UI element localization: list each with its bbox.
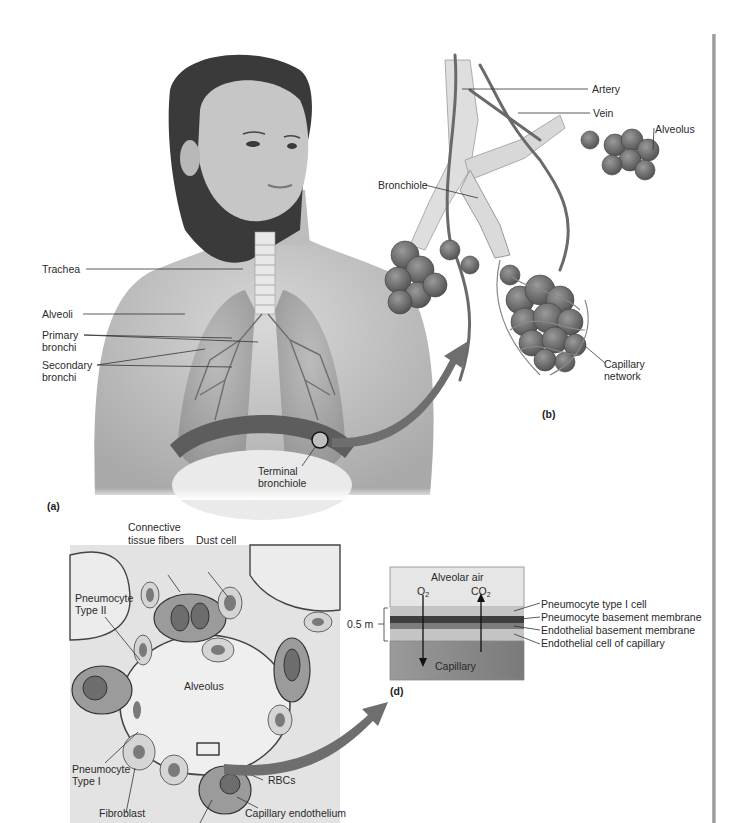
label-pneumocyte-type-i-line1: Pneumocyte	[72, 763, 130, 775]
panel-tag-d: (d)	[390, 685, 403, 697]
label-co2: CO2	[471, 585, 491, 601]
label-alveolus-c: Alveolus	[184, 680, 224, 692]
label-pneumocyte-basement-membrane: Pneumocyte basement membrane	[541, 611, 702, 623]
label-alveolus-b: Alveolus	[655, 123, 695, 135]
label-pneumocyte-type-ii-line1: Pneumocyte	[75, 592, 133, 604]
label-capillary: Capillary	[435, 660, 476, 672]
label-terminal-bronchiole-line1: Terminal	[258, 465, 298, 477]
label-fibroblast: Fibroblast	[99, 807, 145, 819]
label-dust-cell: Dust cell	[196, 534, 236, 546]
label-trachea: Trachea	[42, 263, 80, 275]
alveolus-cross-section-illustration	[70, 545, 388, 823]
label-connective-tissue-line1: Connective	[128, 521, 181, 533]
panel-tag-a: (a)	[47, 500, 60, 512]
label-bronchiole: Bronchiole	[378, 179, 428, 191]
label-primary-bronchi-line2: bronchi	[42, 341, 76, 353]
label-alveoli: Alveoli	[42, 308, 73, 320]
label-vein: Vein	[593, 107, 613, 119]
label-o2: O2	[417, 585, 429, 601]
label-connective-tissue-line2: tissue fibers	[128, 534, 184, 546]
alveolar-sac-illustration	[385, 55, 659, 380]
respiratory-figure-illustration	[0, 0, 738, 823]
label-capillary-network-line2: network	[604, 370, 641, 382]
label-pneumocyte-type-i-line2: Type I	[72, 775, 101, 787]
label-artery: Artery	[592, 83, 620, 95]
label-pneumocyte-type-ii-line2: Type II	[75, 604, 107, 616]
label-secondary-bronchi-line2: bronchi	[42, 371, 76, 383]
label-endothelial-cell-of-capillary: Endothelial cell of capillary	[541, 637, 665, 649]
label-thickness: 0.5 m	[347, 618, 373, 630]
label-terminal-bronchiole-line2: bronchiole	[258, 477, 306, 489]
panel-tag-b: (b)	[542, 408, 555, 420]
label-primary-bronchi-line1: Primary	[42, 329, 78, 341]
label-capillary-network-line1: Capillary	[604, 358, 645, 370]
label-endothelial-basement-membrane: Endothelial basement membrane	[541, 624, 695, 636]
label-rbcs: RBCs	[268, 774, 295, 786]
label-alveolar-air: Alveolar air	[431, 571, 484, 583]
label-secondary-bronchi-line1: Secondary	[42, 359, 92, 371]
label-capillary-endothelium: Capillary endothelium	[245, 807, 346, 819]
label-pneumocyte-type-i-cell: Pneumocyte type I cell	[541, 598, 647, 610]
